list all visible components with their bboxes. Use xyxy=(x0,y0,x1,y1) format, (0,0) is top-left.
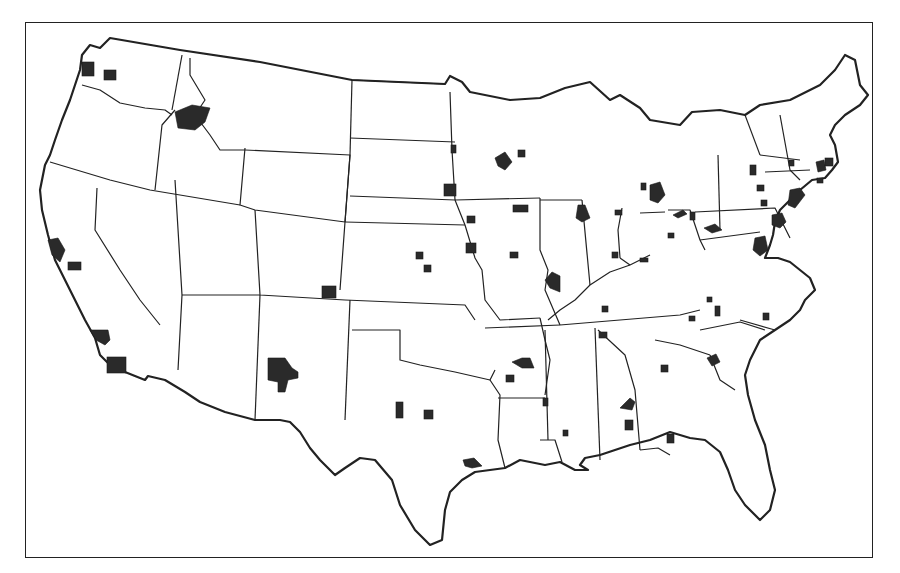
metro-area: New York xyxy=(788,188,805,208)
metro-area: Montgomery-area xyxy=(625,420,633,430)
state-boundary-line xyxy=(352,330,495,380)
state-boundary-line xyxy=(700,322,765,330)
us-map: SeattleTacoma-areaSpokaneSan FranciscoSa… xyxy=(0,0,900,573)
metro-area: Birmingham xyxy=(620,398,635,410)
metro-area: San Diego-area xyxy=(107,357,126,373)
state-boundary-line xyxy=(640,448,670,455)
state-boundary-line xyxy=(560,310,700,325)
state-boundary-line xyxy=(598,330,640,450)
metro-area: Fort Wayne-area xyxy=(615,210,622,215)
state-boundary-line xyxy=(540,318,550,395)
state-boundary-line xyxy=(620,258,630,265)
state-boundary-line xyxy=(540,440,562,462)
state-boundary-line xyxy=(745,115,760,155)
metro-area: Columbia SC xyxy=(707,354,720,366)
metro-area: Knoxville-area xyxy=(689,316,695,321)
metro-area: Denver xyxy=(322,286,336,298)
metro-area: Winston-Salem-area xyxy=(715,306,720,316)
metro-area: Hartford-area xyxy=(817,178,823,183)
metro-area: Seattle xyxy=(82,62,94,76)
state-boundary-line xyxy=(345,222,465,225)
state-boundary-line xyxy=(760,155,800,160)
metro-area: Sioux City-area xyxy=(467,216,475,223)
metro-area: Cleveland xyxy=(673,210,687,218)
state-boundary-line xyxy=(350,196,465,225)
state-boundary-line xyxy=(595,328,600,460)
state-boundary-line xyxy=(172,55,182,110)
metro-areas: SeattleTacoma-areaSpokaneSan FranciscoSa… xyxy=(48,62,833,468)
metro-area: Rochester-area xyxy=(750,165,756,175)
metro-area: San Francisco xyxy=(48,238,65,262)
metro-area: Scranton-area xyxy=(761,200,767,206)
state-boundary-line xyxy=(50,162,240,205)
metro-area: Louisville-area xyxy=(602,306,608,312)
state-boundary-line xyxy=(190,58,245,150)
metro-area: Springfield MA-area xyxy=(789,160,794,166)
metro-area: Wichita-area-1 xyxy=(416,252,423,259)
metro-area: Little Rock xyxy=(512,358,534,368)
metro-area: Jackson-area xyxy=(563,430,568,436)
state-boundary-line xyxy=(240,148,345,222)
metro-area: Chicago xyxy=(576,205,590,222)
metro-area: Flint-area xyxy=(641,183,646,190)
metro-area: Sacramento-area xyxy=(68,262,81,270)
metro-area: Minneapolis xyxy=(495,152,512,170)
state-boundary-line xyxy=(740,320,775,330)
metro-area: Duluth-area xyxy=(518,150,525,157)
state-boundary-line xyxy=(700,232,760,240)
metro-area: Atlanta xyxy=(661,365,668,372)
state-boundary-line xyxy=(175,180,182,370)
metro-area: Tallahassee-area xyxy=(667,434,674,443)
state-boundary-line xyxy=(548,255,650,320)
metro-area: Shreveport-area xyxy=(543,398,548,406)
metro-area: Providence-area xyxy=(825,158,833,166)
state-boundary-line xyxy=(485,325,560,328)
state-boundary-line xyxy=(465,225,540,320)
country-outline xyxy=(40,38,868,545)
metro-area: Kansas City xyxy=(466,243,476,253)
state-boundary-line xyxy=(345,300,475,320)
metro-area: Detroit xyxy=(650,182,665,203)
metro-area: Wichita-area-2 xyxy=(424,265,431,272)
state-boundary-line xyxy=(655,340,710,355)
metro-area: Houston xyxy=(463,458,482,468)
state-boundary-line xyxy=(82,85,172,115)
metro-area: Boston xyxy=(816,160,826,172)
metro-area: Albany-area xyxy=(757,185,764,191)
state-boundary-line xyxy=(618,208,622,258)
metro-area: Spokane xyxy=(175,105,210,130)
state-boundary-line xyxy=(540,198,560,325)
metro-area: Dallas xyxy=(396,402,403,418)
metro-area: Columbus OH-area xyxy=(668,233,674,238)
state-boundary-line xyxy=(490,380,505,468)
metro-area: Roanoke-area xyxy=(707,297,712,302)
metro-area: Raleigh-area xyxy=(763,313,769,320)
state-boundary-line xyxy=(95,188,160,325)
metro-area: Nashville xyxy=(599,332,607,338)
state-boundary-line xyxy=(765,170,810,172)
metro-area: Omaha xyxy=(444,184,456,196)
state-boundary-line xyxy=(668,210,705,250)
state-boundary-line xyxy=(255,295,260,420)
metro-area: Indianapolis xyxy=(612,252,618,258)
metro-area: Cincinnati-area xyxy=(640,258,648,262)
metro-area: Pittsburgh-area xyxy=(690,212,695,220)
metro-area: Tacoma-area xyxy=(104,70,116,80)
metro-area: Hot Springs-area xyxy=(506,375,514,382)
metro-area: Sioux Falls-area xyxy=(451,145,456,153)
state-boundary-line xyxy=(718,155,720,230)
state-boundary-line xyxy=(345,300,350,420)
metro-area: Des Moines xyxy=(513,205,528,212)
state-boundary-line xyxy=(455,198,540,200)
metro-area: Los Angeles xyxy=(90,330,110,345)
state-boundary-line xyxy=(352,80,445,84)
metro-area: Albuquerque xyxy=(268,358,298,392)
metro-area: Columbia MO-area xyxy=(510,252,518,258)
state-boundary-line xyxy=(350,80,352,155)
state-boundary-line xyxy=(640,212,665,213)
state-boundaries xyxy=(50,55,810,468)
metro-area: Fort Worth-area xyxy=(424,410,433,419)
state-boundary-line xyxy=(350,138,455,142)
state-boundary-line xyxy=(155,110,175,190)
